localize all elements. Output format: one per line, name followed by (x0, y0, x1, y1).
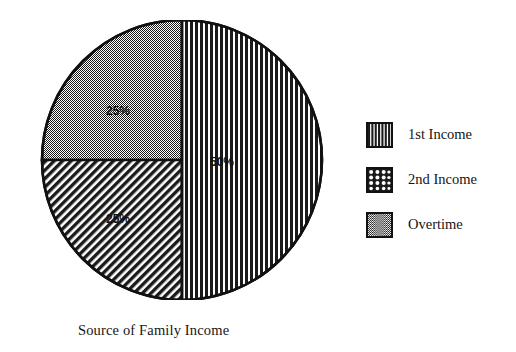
vertical-stripes-swatch-icon (366, 122, 393, 148)
chart-caption: Source of Family Income (78, 322, 229, 339)
legend-item-2nd-income[interactable]: 2nd Income (366, 157, 516, 202)
legend-item-1st-income[interactable]: 1st Income (366, 112, 516, 157)
legend-label-1st-income: 1st Income (408, 126, 472, 143)
pie-slice-overtime[interactable] (42, 20, 182, 160)
pie-slice-2nd-income[interactable] (42, 160, 182, 300)
pie-chart-graphic: 25% 25% 50% (40, 20, 324, 300)
legend-label-2nd-income: 2nd Income (408, 171, 477, 188)
pie-label-1st-income: 50% (210, 155, 234, 169)
pie-slice-1st-income[interactable] (182, 20, 322, 300)
legend-item-overtime[interactable]: Overtime (366, 202, 516, 247)
pie-svg: 25% 25% 50% (40, 20, 324, 300)
pie-label-2nd-income: 25% (106, 212, 130, 226)
pie-label-overtime: 25% (106, 104, 130, 118)
chart-legend: 1st Income (366, 112, 516, 247)
fine-checker-swatch-icon (366, 212, 393, 238)
legend-label-overtime: Overtime (408, 216, 463, 233)
polka-dot-swatch-icon (366, 167, 393, 193)
pie-chart-figure: 25% 25% 50% Source of Family Income (0, 0, 516, 352)
